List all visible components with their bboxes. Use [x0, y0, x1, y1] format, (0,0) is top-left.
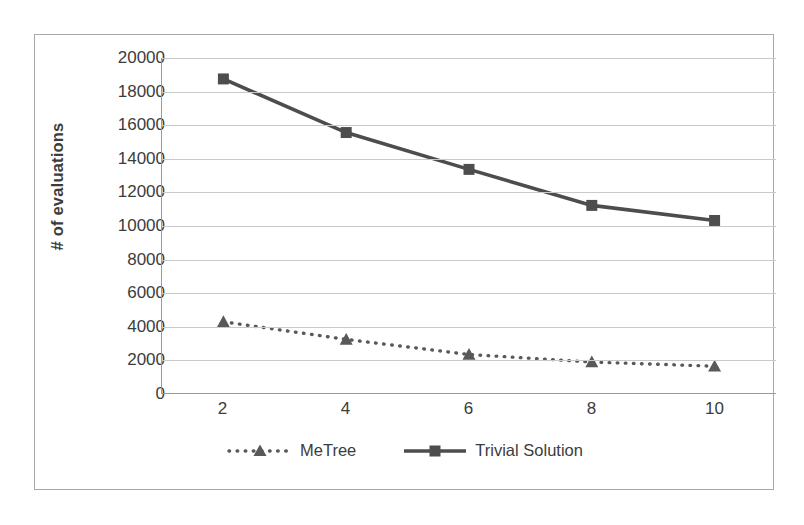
data-point-marker — [709, 215, 720, 226]
gridline — [162, 192, 776, 193]
legend-swatch-square — [402, 443, 468, 459]
gridline — [162, 58, 776, 59]
data-point-marker — [218, 73, 229, 84]
y-axis-title: # of evaluations — [48, 87, 67, 287]
y-axis-tick-labels: 2000018000160001400012000100008000600040… — [81, 58, 165, 394]
x-axis-tick-label: 10 — [680, 399, 750, 419]
series-line-trivial-solution — [223, 79, 714, 221]
legend-label: Trivial Solution — [475, 441, 583, 460]
y-axis-tick-label: 18000 — [81, 82, 165, 102]
y-axis-tick-label: 14000 — [81, 149, 165, 169]
gridline — [162, 293, 776, 294]
data-point-marker — [708, 360, 721, 372]
x-axis-tick-label: 8 — [557, 399, 627, 419]
legend-label: MeTree — [300, 441, 356, 460]
plot-area — [161, 58, 776, 394]
y-axis-tick-label: 2000 — [81, 350, 165, 370]
gridline — [162, 260, 776, 261]
chart-plot-wrapper: # of evaluations 20000180001600014000120… — [35, 35, 775, 491]
gridline — [162, 159, 776, 160]
data-point-marker — [586, 200, 597, 211]
x-axis-tick-label: 6 — [434, 399, 504, 419]
x-axis-tick-labels: 246810 — [161, 399, 776, 429]
y-axis-tick-label: 10000 — [81, 216, 165, 236]
legend-item-trivial-solution[interactable]: Trivial Solution — [402, 441, 583, 460]
y-axis-tick-label: 0 — [81, 384, 165, 404]
data-point-marker — [341, 127, 352, 138]
gridline — [162, 327, 776, 328]
x-axis-tick-label: 4 — [311, 399, 381, 419]
y-axis-tick-label: 12000 — [81, 182, 165, 202]
y-axis-tick-label: 6000 — [81, 283, 165, 303]
gridline — [162, 360, 776, 361]
y-axis-tick-label: 16000 — [81, 115, 165, 135]
chart-legend: MeTreeTrivial Solution — [35, 441, 775, 460]
data-point-marker — [217, 315, 230, 327]
chart-frame: # of evaluations 20000180001600014000120… — [34, 34, 774, 490]
y-axis-tick-label: 8000 — [81, 250, 165, 270]
y-axis-tick-label: 4000 — [81, 317, 165, 337]
y-axis-tick-label: 20000 — [81, 48, 165, 68]
gridline — [162, 125, 776, 126]
gridline — [162, 226, 776, 227]
legend-swatch-triangle — [227, 443, 293, 459]
x-axis-tick-label: 2 — [188, 399, 258, 419]
gridline — [162, 92, 776, 93]
data-point-marker — [585, 356, 598, 368]
data-point-marker — [464, 164, 475, 175]
legend-item-metree[interactable]: MeTree — [227, 441, 356, 460]
